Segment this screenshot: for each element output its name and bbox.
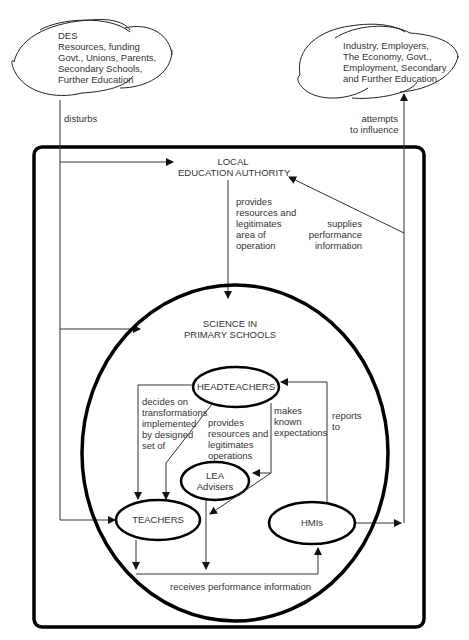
node-science-in-primary-schools: SCIENCE IN PRIMARY SCHOOLS [180,318,280,340]
node-teachers: TEACHERS [116,514,200,525]
edge-label-line: performance [300,229,362,240]
edge-label-line: expectations [274,427,327,438]
cloud-right-line: and Further Education [343,73,447,84]
edge-label-line: provides [236,196,296,207]
edge-label-line: implemented [142,418,207,429]
node-label-line: Advisers [181,481,249,492]
edge-label-line: legitimates [236,218,296,229]
cloud-left-line: Further Education [58,74,156,85]
edge-label-disturbs: disturbs [64,113,97,124]
node-local-education-authority: LOCAL EDUCATION AUTHORITY [178,156,288,178]
node-headteachers: HEADTEACHERS [193,381,279,392]
node-lea-advisers: LEA Advisers [181,470,249,492]
edge-label-line: area of [236,229,296,240]
node-hmis: HMIs [269,517,355,528]
edge-label-line: operations [208,450,268,461]
edge-label-line: resources and [236,207,296,218]
edge-label-line: makes [274,405,327,416]
edge-label-line: resources and [208,428,268,439]
edge-label-attempts-to-influence: attempts to influence [350,113,398,135]
edge-label-decides-on-transformations: decides on transformations implemented b… [142,396,207,451]
node-label-line: SCIENCE IN [180,318,280,329]
edge-label-line: known [274,416,327,427]
edge-label-line: to [332,421,362,432]
cloud-right-line: The Economy, Govt., [343,51,447,62]
edge-label-reports-to: reports to [332,410,362,432]
edge-label-line: by designed [142,429,207,440]
edge-label-line: legitimates [208,439,268,450]
edge-label-receives-performance-information: receives performance information [170,581,311,592]
node-label-line: EDUCATION AUTHORITY [178,167,288,178]
edge-label-supplies-performance-information: supplies performance information [300,218,362,251]
edge-label-line: provides [208,417,268,428]
edge-label-line: set of [142,440,207,451]
edge-label-lea-provides: provides resources and legitimates area … [236,196,296,251]
node-label-line: LOCAL [178,156,288,167]
node-label-line: PRIMARY SCHOOLS [180,329,280,340]
cloud-left-line: DES [58,30,156,41]
edge-label-provides-resources-operations: provides resources and legitimates opera… [208,417,268,461]
node-label-line: LEA [181,470,249,481]
edge-label-line: reports [332,410,362,421]
cloud-right-text: Industry, Employers, The Economy, Govt.,… [343,40,447,84]
cloud-left-line: Govt., Unions, Parents, [58,52,156,63]
edge-label-line: operation [236,240,296,251]
edge-label-makes-known-expectations: makes known expectations [274,405,327,438]
cloud-left-line: Resources, funding [58,41,156,52]
cloud-right-line: Employment, Secondary [343,62,447,73]
edge-label-line: to influence [350,124,398,135]
cloud-left-text: DES Resources, funding Govt., Unions, Pa… [58,30,156,85]
edge-label-line: information [300,240,362,251]
edge-label-line: attempts [350,113,398,124]
cloud-right-line: Industry, Employers, [343,40,447,51]
edge-label-line: decides on [142,396,207,407]
edge-label-line: transformations [142,407,207,418]
cloud-left-line: Secondary Schools, [58,63,156,74]
edge-label-line: supplies [300,218,362,229]
